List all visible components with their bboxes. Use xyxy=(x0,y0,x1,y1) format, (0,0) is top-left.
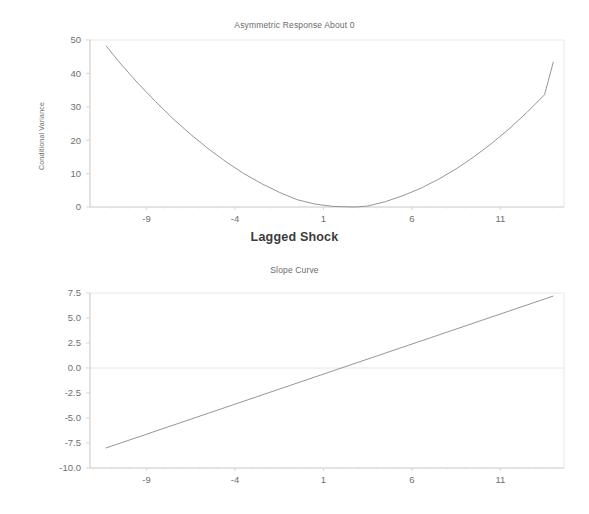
x-ticks-bottom: -9-41611 xyxy=(94,468,554,485)
y-tick-label: 10 xyxy=(70,168,81,179)
x-tick-label: -4 xyxy=(231,474,239,485)
chart-panel-asymmetric-response: Asymmetric Response About 0 Conditional … xyxy=(0,0,589,257)
y-tick-label: 0.0 xyxy=(68,362,81,373)
x-axis-label-top: Lagged Shock xyxy=(0,230,589,244)
y-tick-label: 20 xyxy=(70,135,81,146)
x-tick-label: 1 xyxy=(321,474,326,485)
y-tick-label: 5.0 xyxy=(68,312,81,323)
y-tick-label: -5.0 xyxy=(65,412,81,423)
figure-canvas: Asymmetric Response About 0 Conditional … xyxy=(0,0,589,514)
x-tick-label: -4 xyxy=(231,213,239,224)
x-tick-label: -9 xyxy=(142,474,150,485)
y-tick-label: 0 xyxy=(76,201,81,212)
x-tick-label: 11 xyxy=(495,474,505,485)
y-tick-label: 30 xyxy=(70,101,81,112)
x-tick-label: -9 xyxy=(142,213,150,224)
x-ticks-top: -9-41611 xyxy=(94,207,554,224)
plot-frame-bottom xyxy=(90,293,564,468)
plot-area-bottom: -10.0-7.5-5.0-2.50.02.55.07.5 -9-41611 xyxy=(0,257,589,514)
x-tick-label: 1 xyxy=(321,213,326,224)
y-tick-label: -7.5 xyxy=(65,437,81,448)
y-tick-label: 50 xyxy=(70,34,81,45)
plot-frame-top xyxy=(90,40,564,207)
y-tick-label: 40 xyxy=(70,68,81,79)
x-tick-label: 6 xyxy=(409,474,414,485)
x-tick-label: 6 xyxy=(409,213,414,224)
y-ticks-bottom: -10.0-7.5-5.0-2.50.02.55.07.5 xyxy=(59,287,90,473)
y-ticks-top: 01020304050 xyxy=(70,34,90,212)
y-tick-label: -2.5 xyxy=(65,387,81,398)
y-tick-label: 2.5 xyxy=(68,337,81,348)
chart-panel-slope-curve: Slope Curve -10.0-7.5-5.0-2.50.02.55.07.… xyxy=(0,257,589,514)
y-tick-label: -10.0 xyxy=(59,462,81,473)
plot-area-top: 01020304050 -9-41611 xyxy=(0,0,589,257)
data-curve-conditional-variance xyxy=(106,46,553,207)
x-tick-label: 11 xyxy=(495,213,505,224)
data-curve-slope xyxy=(106,296,553,448)
y-tick-label: 7.5 xyxy=(68,287,81,298)
